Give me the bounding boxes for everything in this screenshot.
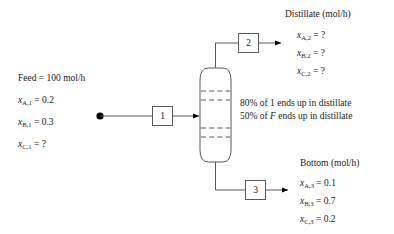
distillate-spec-c-sub: C,2: [301, 70, 310, 77]
bottom-spec-c-eq: = 0.2: [316, 214, 336, 224]
feed-spec-a-eq: = 0.2: [34, 95, 54, 105]
bottom-spec-a-eq: = 0.1: [316, 178, 336, 188]
feed-heading: Feed = 100 mol/h: [18, 74, 85, 84]
stream-box-distillate[interactable]: 2: [238, 33, 259, 53]
feed-spec-b-eq: = 0.3: [34, 117, 54, 127]
constraint-note-2-pre: 50% of: [240, 111, 270, 121]
feed-spec-a-sub: A,1: [22, 99, 32, 106]
constraint-note-line-2: 50% of F ends up in distillate: [240, 112, 352, 122]
stream-box-feed[interactable]: 1: [152, 106, 173, 126]
column-vessel: [200, 68, 231, 162]
bottom-spec-c-sub: C,3: [304, 218, 313, 225]
bottom-spec-b-sub: B,3: [304, 200, 313, 207]
distillate-heading: Distillate (mol/h): [285, 10, 351, 20]
distillate-spec-b: xB,2 = ?: [297, 49, 325, 59]
distillate-spec-c-eq: = ?: [313, 66, 325, 76]
constraint-note-2-post: ends up in distillate: [276, 111, 353, 121]
distillate-spec-a-sub: A,2: [301, 34, 311, 41]
feed-spec-a: xA,1 = 0.2: [18, 96, 54, 106]
distillate-line-segment-a: [216, 43, 239, 68]
bottom-line-segment-a: [216, 162, 246, 190]
bottom-spec-a: xA,3 = 0.1: [300, 179, 336, 189]
feed-spec-c-eq: = ?: [34, 139, 46, 149]
constraint-note-line-1: 80% of 1 ends up in distillate: [240, 99, 351, 109]
bottom-spec-b-eq: = 0.7: [316, 196, 336, 206]
distillate-spec-a-eq: = ?: [313, 30, 325, 40]
distillate-spec-b-eq: = ?: [313, 48, 325, 58]
bottom-spec-a-sub: A,3: [304, 182, 314, 189]
distillate-spec-b-sub: B,2: [301, 52, 310, 59]
bottom-spec-c: xC,3 = 0.2: [300, 215, 336, 225]
bottom-spec-b: xB,3 = 0.7: [300, 197, 336, 207]
bottom-heading: Bottom (mol/h): [300, 159, 359, 169]
feed-spec-c-sub: C,1: [22, 143, 31, 150]
feed-spec-c: xC,1 = ?: [18, 140, 46, 150]
diagram-canvas: 1 2 3 Feed = 100 mol/h xA,1 = 0.2 xB,1 =…: [0, 0, 394, 234]
distillate-spec-c: xC,2 = ?: [297, 67, 325, 77]
stream-box-bottom[interactable]: 3: [245, 180, 266, 200]
distillate-spec-a: xA,2 = ?: [297, 31, 325, 41]
feed-spec-b-sub: B,1: [22, 121, 31, 128]
feed-spec-b: xB,1 = 0.3: [18, 118, 54, 128]
